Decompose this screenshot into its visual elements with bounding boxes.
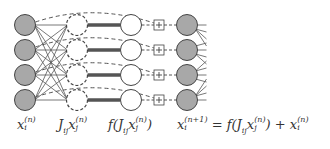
output-node — [177, 65, 198, 86]
output-node — [177, 15, 198, 36]
weighted-sum-node — [67, 90, 88, 111]
label-input-state: x(n)i — [17, 118, 36, 133]
weighted-sum-node — [67, 65, 88, 86]
label-update-equation: x(n+1)i = f(Jijx(n)j) + x(n)i — [177, 118, 309, 135]
input-node — [15, 15, 36, 36]
activation-node — [121, 65, 142, 86]
output-node — [177, 90, 198, 111]
label-weighted-sum: Jijx(n)j — [58, 118, 87, 135]
activation-node — [121, 90, 142, 111]
activation-node — [121, 15, 142, 36]
output-node — [177, 40, 198, 61]
label-activation: f(Jijx(n)j) — [108, 118, 152, 135]
input-node — [15, 65, 36, 86]
output-edge — [195, 43, 206, 46]
weighted-sum-node — [67, 15, 88, 36]
activation-node — [121, 40, 142, 61]
input-node — [15, 90, 36, 111]
weighted-sum-node — [67, 40, 88, 61]
input-node — [15, 40, 36, 61]
